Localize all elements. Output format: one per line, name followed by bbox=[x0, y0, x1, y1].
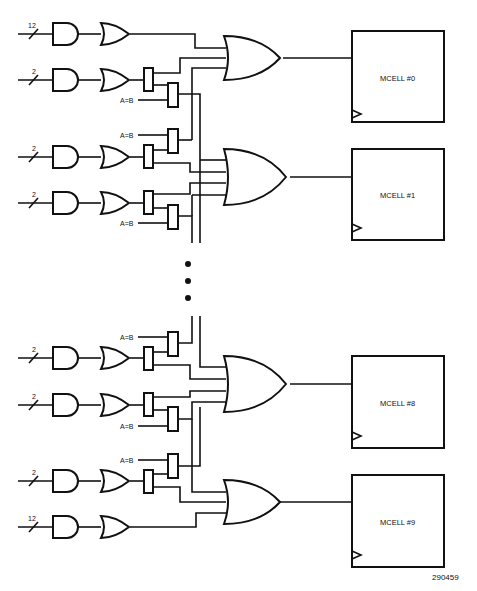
bus-width-label: 2 bbox=[32, 469, 36, 476]
ellipsis-icon bbox=[185, 261, 191, 301]
select-label: A=B bbox=[120, 97, 134, 104]
macrocell-label: MCELL #9 bbox=[380, 518, 415, 527]
bus-width-label: 2 bbox=[32, 191, 36, 198]
input-rows bbox=[18, 23, 129, 538]
bus-width-label: 12 bbox=[28, 515, 36, 522]
steering-switches bbox=[130, 68, 178, 493]
or-gate-mcell-1 bbox=[224, 149, 286, 205]
bus-width-label: 2 bbox=[32, 346, 36, 353]
select-label: A=B bbox=[120, 334, 134, 341]
bus-width-label: 2 bbox=[32, 393, 36, 400]
or-gate-mcell-9 bbox=[224, 480, 280, 524]
logic-diagram: 12 2 2 2 2 2 2 12 bbox=[0, 0, 477, 591]
bus-width-label: 2 bbox=[32, 145, 36, 152]
or-gate-mcell-0 bbox=[224, 36, 280, 80]
figure-number: 290459 bbox=[432, 573, 459, 582]
bus-width-label: 12 bbox=[28, 22, 36, 29]
macrocell-label: MCELL #0 bbox=[380, 74, 415, 83]
select-label: A=B bbox=[120, 457, 134, 464]
macrocell-label: MCELL #8 bbox=[380, 399, 415, 408]
or-gate-mcell-8 bbox=[224, 356, 286, 412]
select-label: A=B bbox=[120, 220, 134, 227]
routing-wires bbox=[130, 34, 352, 527]
select-label: A=B bbox=[120, 132, 134, 139]
select-label: A=B bbox=[120, 423, 134, 430]
macrocell-label: MCELL #1 bbox=[380, 191, 415, 200]
bus-width-label: 2 bbox=[32, 68, 36, 75]
